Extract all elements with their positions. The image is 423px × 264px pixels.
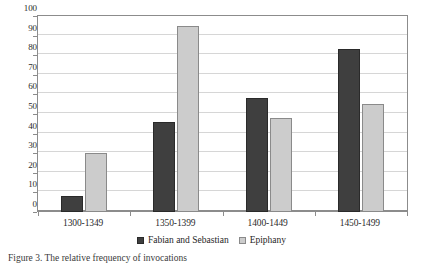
bar — [270, 118, 292, 212]
y-axis-tick-label: 60 — [7, 82, 37, 91]
bar-group — [38, 16, 130, 212]
y-axis-tick-label: 10 — [7, 180, 37, 189]
bar — [362, 104, 384, 212]
y-axis-tick-label: 70 — [7, 63, 37, 72]
x-axis-tick-label: 1300-1349 — [37, 218, 129, 229]
legend-label: Fabian and Sebastian — [148, 235, 229, 246]
bar — [338, 49, 360, 212]
x-axis-tick-mark — [407, 212, 408, 216]
y-axis-tick-label: 30 — [7, 141, 37, 150]
x-axis-tick-label: 1450-1499 — [314, 218, 406, 229]
figure-caption: Figure 3. The relative frequency of invo… — [8, 253, 418, 264]
legend-swatch-icon — [137, 237, 144, 244]
x-axis-tick-mark — [38, 212, 39, 216]
y-axis: 0102030405060708090100 — [0, 15, 37, 213]
bar-group — [223, 16, 315, 212]
legend-swatch-icon — [239, 237, 246, 244]
x-axis-tick-mark — [223, 212, 224, 216]
x-axis-tick-label: 1400-1449 — [222, 218, 314, 229]
legend-entry: Epiphany — [239, 235, 286, 246]
chart-legend: Fabian and SebastianEpiphany — [0, 235, 423, 246]
legend-label: Epiphany — [250, 235, 286, 246]
bar — [153, 122, 175, 212]
x-axis-tick-mark — [130, 212, 131, 216]
legend-entry: Fabian and Sebastian — [137, 235, 229, 246]
y-axis-tick-label: 50 — [7, 102, 37, 111]
bar — [177, 26, 199, 212]
y-axis-tick-label: 0 — [7, 200, 37, 209]
bar — [61, 196, 83, 212]
y-axis-tick-label: 90 — [7, 24, 37, 33]
bar-group — [130, 16, 222, 212]
x-axis: 1300-13491350-13991400-14491450-1499 — [37, 212, 408, 232]
bar — [85, 153, 107, 212]
x-axis-tick-mark — [315, 212, 316, 216]
x-axis-tick-label: 1350-1399 — [129, 218, 221, 229]
bars-layer — [38, 16, 407, 212]
bar — [246, 98, 268, 212]
y-axis-tick-label: 40 — [7, 122, 37, 131]
y-axis-tick-label: 100 — [7, 4, 37, 13]
bar-group — [315, 16, 407, 212]
y-axis-tick-label: 80 — [7, 43, 37, 52]
y-axis-tick-label: 20 — [7, 161, 37, 170]
